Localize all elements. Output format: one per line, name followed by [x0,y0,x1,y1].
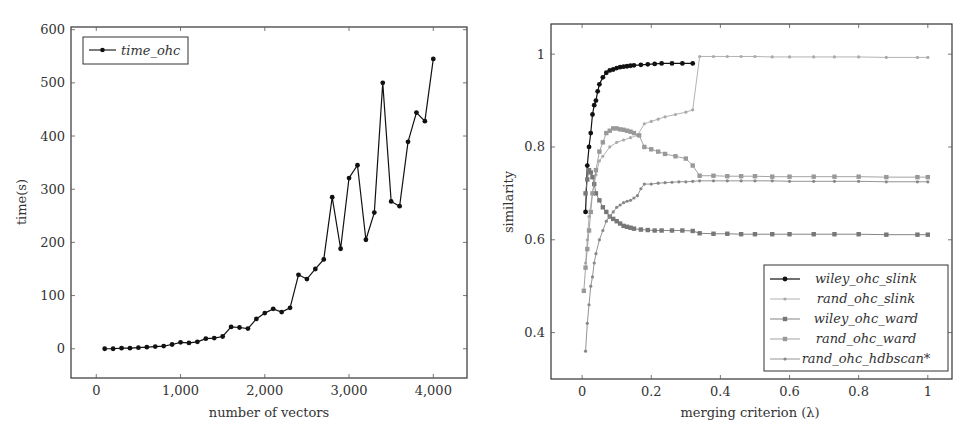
x-tick-label: 0 [578,384,586,399]
x-tick-label: 0.6 [779,384,800,399]
series-line [105,59,434,349]
y-tick-label: 400 [40,129,65,144]
legend-wiley-ohc-ward: wiley_ohc_ward [814,311,918,326]
y-tick-label: 0.4 [524,325,545,340]
left-y-axis-label: time(s) [14,179,29,225]
x-tick-label: 0.4 [710,384,731,399]
right-x-axis-label: merging criterion (λ) [680,405,819,420]
x-tick-label: 3,000 [330,383,367,398]
y-tick-label: 0.6 [524,232,545,247]
series-line [586,56,928,263]
similarity-chart: 00.20.40.60.810.40.60.81 similarity merg… [501,24,952,420]
y-tick-label: 600 [40,22,65,37]
x-tick-label: 0.8 [848,384,869,399]
series-line [586,63,693,211]
legend-rand-ohc-ward: rand_ohc_ward [816,331,917,346]
legend-rand-ohc-hdbscan: rand_ohc_hdbscan* [802,351,931,366]
right-legend: wiley_ohc_slink rand_ohc_slink wiley_ohc… [764,265,948,371]
y-tick-label: 1 [537,47,545,62]
legend-marker-icon [783,277,788,282]
x-tick-label: 1,000 [162,383,199,398]
y-tick-label: 300 [40,182,65,197]
y-tick-label: 100 [40,288,65,303]
time-chart: 01,0002,0003,0004,0000100200300400500600… [14,22,467,420]
legend-marker-icon [783,317,787,321]
y-tick-label: 0 [57,341,65,356]
legend-time-ohc: time_ohc [121,43,181,58]
x-tick-label: 4,000 [415,383,452,398]
legend-marker-icon [100,48,105,53]
series-line [586,170,928,235]
left-x-axis-label: number of vectors [209,405,329,420]
x-tick-label: 1 [924,384,932,399]
y-tick-label: 200 [40,235,65,250]
time-ohc-series [102,57,435,352]
legend-marker-icon [783,297,786,300]
x-tick-label: 2,000 [246,383,283,398]
legend-marker-icon [783,357,786,360]
legend-rand-ohc-slink: rand_ohc_slink [817,291,915,306]
x-tick-label: 0.2 [641,384,662,399]
y-tick-label: 500 [40,75,65,90]
y-tick-label: 0.8 [524,139,545,154]
left-legend: time_ohc [83,37,188,64]
x-tick-label: 0 [92,383,100,398]
legend-wiley-ohc-slink: wiley_ohc_slink [815,271,917,286]
right-y-axis-label: similarity [501,170,516,233]
left-plot-frame [71,27,467,378]
left-axis-ticks: 01,0002,0003,0004,0000100200300400500600 [40,22,467,398]
legend-marker-icon [783,337,787,341]
figure-canvas: 01,0002,0003,0004,0000100200300400500600… [0,0,964,443]
